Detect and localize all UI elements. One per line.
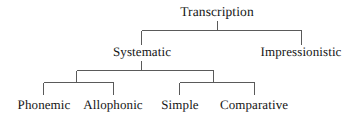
node-allophonic: Allophonic — [83, 98, 143, 111]
node-phonemic: Phonemic — [18, 98, 71, 111]
node-transcription: Transcription — [180, 5, 254, 18]
transcription-tree-diagram: Transcription Systematic Impressionistic… — [0, 0, 356, 122]
node-systematic: Systematic — [113, 45, 171, 58]
node-comparative: Comparative — [220, 98, 288, 111]
node-simple: Simple — [161, 98, 198, 111]
node-impressionistic: Impressionistic — [261, 45, 342, 58]
